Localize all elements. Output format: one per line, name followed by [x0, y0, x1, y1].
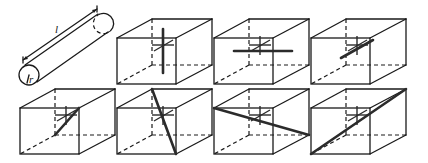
length-dimension-line	[23, 9, 97, 60]
cylinder: l r	[19, 6, 114, 85]
cylinder-back-end	[100, 13, 114, 33]
cube-steep-diagonal-rod	[117, 89, 212, 154]
cylinder-bottom-edge	[37, 32, 108, 82]
cube-horizontal-rod	[214, 19, 309, 84]
cube-depth-rod	[311, 19, 406, 84]
cylinder-back-end-hidden	[93, 14, 107, 34]
cylinder-top-edge	[25, 14, 98, 65]
rod-steep-diagonal	[152, 89, 176, 154]
cube-body-diagonal-down-rod	[214, 89, 309, 154]
rod-body-diagonal-up	[311, 89, 406, 154]
cube-vertical-rod	[117, 19, 212, 84]
length-label: l	[55, 23, 58, 35]
rod-side-diagonal	[55, 108, 79, 135]
radius-label: r	[29, 73, 34, 85]
rod-body-diagonal-down	[214, 108, 309, 135]
diagram-canvas: l r	[0, 0, 428, 163]
cube-body-diagonal-up-rod	[311, 89, 406, 154]
cube-side-diagonal-rod	[20, 89, 115, 154]
